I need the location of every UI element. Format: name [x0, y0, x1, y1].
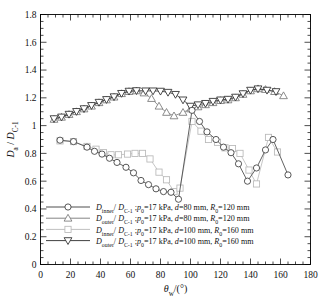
marker-circle — [262, 147, 268, 153]
x-tick-label: 120 — [213, 270, 228, 280]
marker-circle — [270, 136, 276, 142]
marker-square — [139, 150, 145, 156]
marker-circle — [189, 107, 195, 113]
figure-chart: 02040608010012014016018000.20.40.60.811.… — [0, 0, 331, 304]
y-tick-label: 1 — [32, 121, 37, 131]
marker-square — [205, 136, 211, 142]
y-tick-label: 0.6 — [25, 177, 37, 187]
marker-square — [65, 226, 71, 232]
marker-circle — [114, 159, 120, 165]
marker-circle — [130, 170, 136, 176]
x-tick-label: 60 — [126, 270, 136, 280]
marker-circle — [220, 144, 226, 150]
x-tick-label: 160 — [273, 270, 288, 280]
chart-canvas: 02040608010012014016018000.20.40.60.811.… — [0, 0, 331, 304]
marker-square — [132, 150, 138, 156]
marker-circle — [175, 196, 181, 202]
marker-square — [124, 151, 130, 157]
x-tick-label: 80 — [156, 270, 166, 280]
marker-circle — [91, 148, 97, 154]
marker-circle — [168, 189, 174, 195]
y-tick-label: 0 — [32, 260, 37, 270]
y-tick-label: 1.2 — [25, 93, 37, 103]
marker-square — [237, 150, 243, 156]
marker-circle — [244, 178, 250, 184]
y-axis-title: Da / DC-1 — [5, 121, 20, 159]
marker-circle — [57, 137, 63, 143]
marker-square — [253, 181, 259, 187]
marker-square — [163, 177, 169, 183]
marker-square — [198, 128, 204, 134]
x-axis-title: θw/(°) — [164, 283, 188, 298]
marker-square — [156, 169, 162, 175]
marker-square — [147, 156, 153, 162]
x-tick-label: 40 — [96, 270, 106, 280]
x-tick-label: 180 — [303, 270, 318, 280]
marker-circle — [84, 144, 90, 150]
marker-circle — [160, 188, 166, 194]
y-tick-label: 1.4 — [25, 65, 37, 75]
x-tick-label: 100 — [183, 270, 198, 280]
marker-circle — [65, 204, 71, 210]
x-tick-label: 140 — [243, 270, 258, 280]
marker-circle — [99, 151, 105, 157]
y-tick-label: 0.2 — [25, 232, 37, 242]
marker-circle — [145, 182, 151, 188]
x-tick-label: 0 — [38, 270, 43, 280]
marker-circle — [213, 136, 219, 142]
y-tick-label: 1.8 — [25, 10, 37, 20]
marker-circle — [123, 164, 129, 170]
marker-circle — [196, 118, 202, 124]
marker-circle — [235, 161, 241, 167]
y-tick-label: 1.6 — [25, 38, 37, 48]
marker-circle — [138, 177, 144, 183]
x-tick-label: 20 — [66, 270, 76, 280]
y-tick-label: 0.4 — [25, 204, 37, 214]
y-tick-label: 0.8 — [25, 149, 37, 159]
marker-circle — [70, 138, 76, 144]
marker-circle — [153, 186, 159, 192]
marker-square — [115, 152, 121, 158]
marker-circle — [228, 150, 234, 156]
marker-square — [246, 167, 252, 173]
marker-circle — [253, 165, 259, 171]
marker-circle — [285, 172, 291, 178]
marker-circle — [204, 129, 210, 135]
marker-circle — [106, 155, 112, 161]
